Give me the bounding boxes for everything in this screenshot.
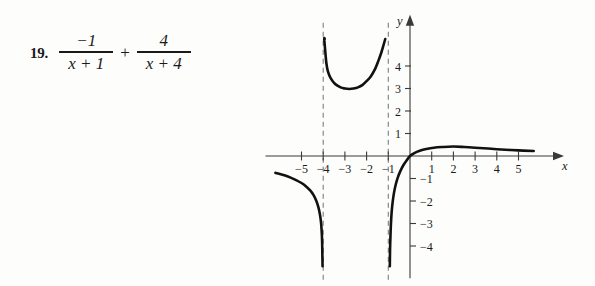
fraction-1-numerator: −1 xyxy=(70,32,102,51)
problem-number: 19. xyxy=(30,43,48,62)
y-tick-label: −3 xyxy=(420,217,433,231)
axes-group xyxy=(265,15,564,279)
x-tick-label: 4 xyxy=(494,162,500,176)
y-tick-label: 3 xyxy=(395,82,401,96)
worksheet-page: 19. −1 x + 1 + 4 x + 4 −5−4−3−2−112345 1… xyxy=(0,0,595,286)
y-axis-arrow xyxy=(406,15,414,26)
curve-group xyxy=(275,38,533,266)
fraction-term-1: −1 x + 1 xyxy=(59,32,113,73)
fraction-1-denominator: x + 1 xyxy=(62,53,110,73)
x-tick-label: 3 xyxy=(472,162,478,176)
coordinate-plot: −5−4−3−2−112345 1234−1−2−3−4 x y xyxy=(160,0,595,286)
right-branch xyxy=(390,147,534,267)
middle-branch xyxy=(324,38,385,89)
x-tick-label: −3 xyxy=(339,162,352,176)
y-tick-label: 4 xyxy=(395,60,401,74)
y-tick-label: −2 xyxy=(420,195,433,209)
x-tick-group: −5−4−3−2−112345 xyxy=(295,152,521,177)
y-tick-label: −1 xyxy=(420,172,433,186)
y-tick-label: 2 xyxy=(395,105,401,119)
y-axis-label: y xyxy=(395,14,403,28)
y-tick-label: −4 xyxy=(420,240,433,254)
left-branch xyxy=(275,173,322,266)
y-tick-label: 1 xyxy=(395,127,401,141)
x-tick-label: −5 xyxy=(295,162,308,176)
x-tick-label: −4 xyxy=(317,162,330,176)
x-tick-label: −1 xyxy=(382,162,395,176)
plus-operator: + xyxy=(120,42,130,63)
x-axis-label: x xyxy=(561,159,568,173)
x-tick-label: 5 xyxy=(516,162,522,176)
x-tick-label: 2 xyxy=(450,162,456,176)
graph-figure: −5−4−3−2−112345 1234−1−2−3−4 x y xyxy=(160,0,595,286)
x-tick-label: −2 xyxy=(360,162,373,176)
